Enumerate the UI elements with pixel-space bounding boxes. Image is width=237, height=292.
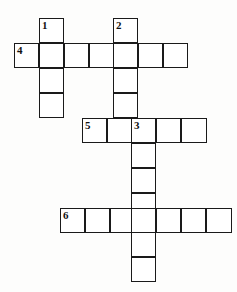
crossword-cell[interactable]	[163, 43, 188, 68]
crossword-cell[interactable]	[131, 232, 156, 257]
crossword-cell[interactable]	[85, 208, 110, 233]
crossword-cell[interactable]	[113, 43, 138, 68]
crossword-cell-numbered[interactable]: 3	[131, 118, 156, 143]
clue-number-4: 4	[17, 44, 23, 57]
clue-number-1: 1	[42, 19, 48, 32]
crossword-cell[interactable]	[107, 118, 132, 143]
clue-number-3: 3	[134, 119, 140, 132]
crossword-cell[interactable]	[181, 208, 206, 233]
crossword-cell-numbered[interactable]: 1	[39, 18, 64, 43]
crossword-grid: 124536	[0, 0, 237, 292]
crossword-cell-numbered[interactable]: 4	[14, 43, 39, 68]
crossword-cell[interactable]	[138, 43, 163, 68]
crossword-cell[interactable]	[131, 143, 156, 168]
crossword-cell[interactable]	[131, 168, 156, 193]
clue-number-5: 5	[85, 119, 91, 132]
crossword-cell[interactable]	[156, 208, 181, 233]
crossword-cell[interactable]	[181, 118, 207, 143]
crossword-cell-numbered[interactable]: 5	[82, 118, 107, 143]
crossword-cell[interactable]	[131, 257, 156, 282]
crossword-cell[interactable]	[131, 208, 156, 233]
clue-number-6: 6	[63, 209, 69, 222]
crossword-cell[interactable]	[113, 93, 138, 118]
crossword-cell[interactable]	[206, 208, 232, 233]
crossword-cell[interactable]	[39, 68, 64, 93]
crossword-cell[interactable]	[156, 118, 181, 143]
crossword-cell[interactable]	[39, 43, 64, 68]
crossword-cell-numbered[interactable]: 2	[113, 18, 138, 43]
crossword-cell-numbered[interactable]: 6	[60, 208, 85, 233]
crossword-cell[interactable]	[113, 68, 138, 93]
clue-number-2: 2	[116, 19, 122, 32]
crossword-cell[interactable]	[64, 43, 89, 68]
crossword-cell[interactable]	[89, 43, 114, 68]
crossword-cell[interactable]	[39, 93, 64, 118]
